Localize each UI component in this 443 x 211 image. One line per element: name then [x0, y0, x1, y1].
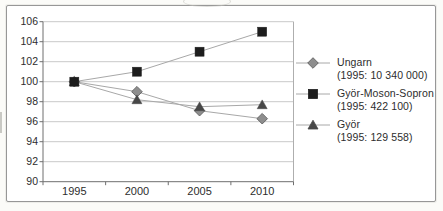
svg-text:1995: 1995 — [62, 185, 86, 197]
legend-label-gyor-moson-sopron: Györ-Moson-Sopron — [337, 87, 434, 100]
legend-label-gyor: Györ — [337, 118, 413, 131]
diamond-marker-icon — [296, 57, 330, 69]
legend-note-ungarn: (1995: 10 340 000) — [337, 69, 428, 82]
legend: Ungarn (1995: 10 340 000) Györ-Moson-Sop… — [296, 56, 434, 149]
svg-text:104: 104 — [20, 35, 38, 47]
svg-text:100: 100 — [20, 75, 38, 87]
svg-text:90: 90 — [26, 175, 38, 187]
legend-label-ungarn: Ungarn — [337, 56, 428, 69]
svg-text:98: 98 — [26, 95, 38, 107]
svg-text:106: 106 — [20, 15, 38, 27]
svg-text:2000: 2000 — [125, 185, 149, 197]
legend-item-ungarn: Ungarn (1995: 10 340 000) — [296, 56, 434, 81]
legend-note-gyor-moson-sopron: (1995: 422 100) — [337, 100, 434, 113]
square-marker-icon — [296, 88, 330, 100]
triangle-marker-icon — [296, 119, 330, 131]
scanned-chart-figure: 90929496981001021041061995200020052010 U… — [0, 0, 443, 211]
legend-item-gyor-moson-sopron: Györ-Moson-Sopron (1995: 422 100) — [296, 87, 434, 112]
svg-text:92: 92 — [26, 155, 38, 167]
svg-text:96: 96 — [26, 115, 38, 127]
svg-text:94: 94 — [26, 135, 38, 147]
svg-text:102: 102 — [20, 55, 38, 67]
legend-item-gyor: Györ (1995: 129 558) — [296, 118, 434, 143]
svg-text:2005: 2005 — [187, 185, 211, 197]
legend-note-gyor: (1995: 129 558) — [337, 131, 413, 144]
svg-text:2010: 2010 — [250, 185, 274, 197]
